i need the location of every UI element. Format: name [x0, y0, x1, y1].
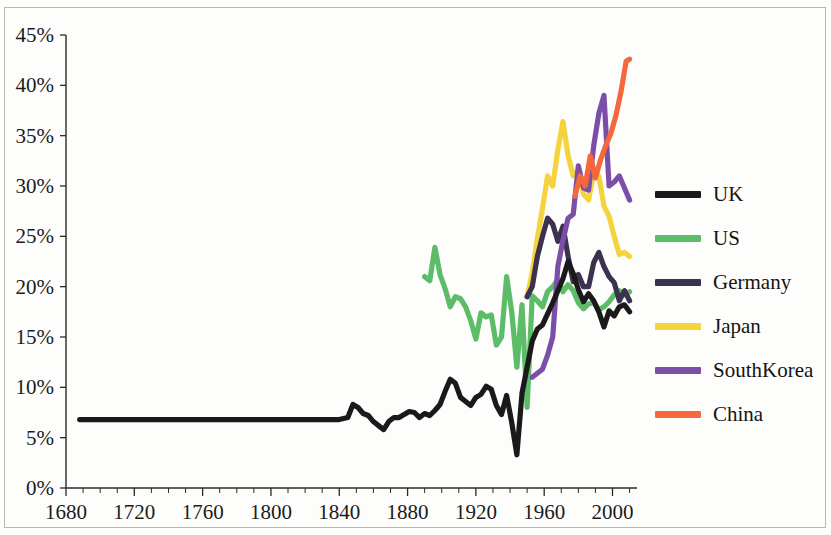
legend-item-uk[interactable]: UK — [655, 172, 825, 216]
legend-item-china[interactable]: China — [655, 392, 825, 436]
y-axis-tick-label: 5% — [0, 425, 54, 450]
legend-swatch-icon — [655, 279, 701, 286]
x-axis-tick-label: 1800 — [250, 500, 292, 525]
x-axis-tick-label: 1680 — [45, 500, 87, 525]
x-axis-tick-label: 1920 — [455, 500, 497, 525]
x-axis-tick-label: 1840 — [318, 500, 360, 525]
legend-label: China — [713, 402, 763, 427]
y-axis-tick-label: 25% — [0, 224, 54, 249]
legend-swatch-icon — [655, 323, 701, 330]
series-line-japan — [527, 122, 629, 297]
chart-figure: 0%5%10%15%20%25%30%35%40%45% 16801720176… — [0, 0, 831, 535]
y-axis-tick-label: 40% — [0, 73, 54, 98]
legend-label: US — [713, 226, 740, 251]
legend-item-southkorea[interactable]: SouthKorea — [655, 348, 825, 392]
y-axis-tick-label: 10% — [0, 375, 54, 400]
legend-label: Germany — [713, 270, 791, 295]
legend-swatch-icon — [655, 367, 701, 374]
y-axis-tick-label: 15% — [0, 325, 54, 350]
y-axis-tick-label: 35% — [0, 123, 54, 148]
legend-label: SouthKorea — [713, 358, 813, 383]
legend-item-germany[interactable]: Germany — [655, 260, 825, 304]
legend-item-us[interactable]: US — [655, 216, 825, 260]
x-axis-tick-label: 2000 — [592, 500, 634, 525]
legend-label: UK — [713, 182, 743, 207]
x-axis-tick-label: 1960 — [523, 500, 565, 525]
legend-item-japan[interactable]: Japan — [655, 304, 825, 348]
legend-swatch-icon — [655, 411, 701, 418]
y-axis-tick-label: 45% — [0, 23, 54, 48]
y-axis-tick-label: 20% — [0, 274, 54, 299]
legend-swatch-icon — [655, 235, 701, 242]
legend-swatch-icon — [655, 191, 701, 198]
y-axis-tick-label: 30% — [0, 174, 54, 199]
legend-label: Japan — [713, 314, 761, 339]
y-axis-tick-label: 0% — [0, 476, 54, 501]
x-axis-tick-label: 1880 — [387, 500, 429, 525]
chart-legend: UKUSGermanyJapanSouthKoreaChina — [655, 172, 825, 436]
x-axis-tick-label: 1720 — [113, 500, 155, 525]
x-axis-tick-label: 1760 — [182, 500, 224, 525]
